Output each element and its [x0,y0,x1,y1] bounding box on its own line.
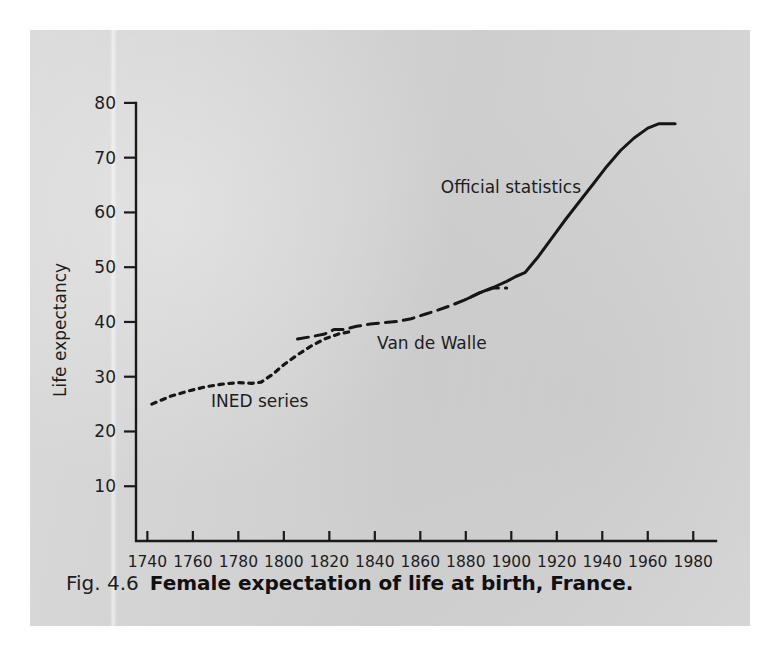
y-axis-tick-label: 40 [94,312,116,332]
x-axis-ticks [147,531,693,541]
y-axis-tick-label: 30 [94,367,116,387]
axis-lines [136,103,716,541]
figure-caption: Fig. 4.6 Female expectation of life at b… [66,566,706,600]
data-series-group [152,124,675,404]
figure-title: Female expectation of life at birth, Fra… [150,571,634,595]
figure-number: Fig. 4.6 [66,571,139,595]
y-axis-ticks [124,103,136,486]
y-axis-tick-label: 10 [94,476,116,496]
axes-group: 1020304050607080 17401760178018001820184… [50,93,716,571]
series-line-official-statistics [466,124,675,300]
figure-page: 1020304050607080 17401760178018001820184… [0,0,777,654]
y-axis-tick-label: 70 [94,148,116,168]
line-chart: 1020304050607080 17401760178018001820184… [30,30,750,626]
series-label-ined-series: INED series [211,391,308,411]
y-axis-title: Life expectancy [50,263,70,397]
series-label-official-statistics: Official statistics [441,177,581,197]
y-axis-tick-label: 50 [94,257,116,277]
y-axis-tick-label: 60 [94,202,116,222]
y-axis-tick-label: 80 [94,93,116,113]
y-axis-tick-labels: 1020304050607080 [94,93,116,496]
series-annotations: INED seriesVan de WalleOfficial statisti… [211,177,581,411]
series-label-van-de-walle: Van de Walle [377,333,487,353]
y-axis-tick-label: 20 [94,421,116,441]
